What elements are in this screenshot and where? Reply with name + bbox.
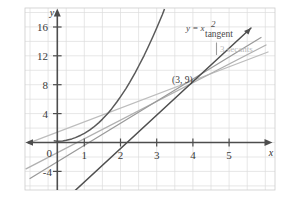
y-tick-label-16: 16 — [37, 21, 49, 33]
parabola-tangent-secants-chart: 16 12 8 4 0 -4 1 2 3 4 5 y x y = x 2 tan… — [0, 0, 287, 199]
x-tick-label-1: 1 — [82, 149, 88, 161]
x-tick-label-5: 5 — [226, 149, 232, 161]
x-axis-label: x — [268, 147, 274, 158]
y-tick-label-12: 12 — [37, 50, 48, 62]
y-tick-label-0: 0 — [47, 147, 53, 159]
y-tick-label-minus4: -4 — [43, 166, 53, 178]
tangent-annotation-label: tangent — [205, 29, 233, 39]
y-tick-label-8: 8 — [43, 79, 49, 91]
secants-annotation-label: 3 secants — [220, 44, 253, 54]
x-tick-label-3: 3 — [154, 149, 160, 161]
point-of-tangency-label: (3, 9) — [172, 75, 193, 86]
y-axis-label: y — [49, 7, 55, 18]
chart-figure: 16 12 8 4 0 -4 1 2 3 4 5 y x y = x 2 tan… — [0, 0, 287, 199]
x-tick-label-2: 2 — [118, 149, 124, 161]
x-tick-label-4: 4 — [190, 149, 196, 161]
curve-equation-text: y = x — [185, 23, 205, 33]
curve-equation-superscript: 2 — [211, 19, 216, 29]
secants-annotation: 3 secants — [217, 43, 254, 56]
y-tick-label-4: 4 — [43, 108, 49, 120]
